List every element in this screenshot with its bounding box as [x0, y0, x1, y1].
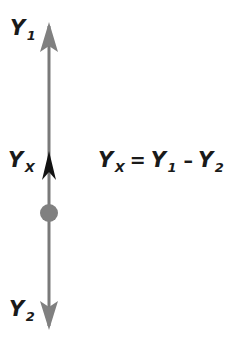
- axis-label-y2-base: Y: [9, 297, 25, 321]
- axis-label-y2-subscript: 2: [26, 309, 35, 324]
- equation-minus-operator: –: [183, 149, 193, 171]
- axis-label-yx-subscript: X: [25, 160, 35, 175]
- equation-term2-base: Y: [198, 148, 214, 172]
- axis-label-yx-base: Y: [8, 148, 24, 172]
- equation-term2-subscript: 2: [215, 160, 224, 175]
- axis-label-yx: YX: [8, 150, 35, 174]
- node-dot-icon: [40, 204, 58, 222]
- axis-label-y1: Y1: [10, 18, 36, 42]
- vector-diagram-figure: Y1 YX Y2 YX=Y1–Y2: [0, 0, 237, 349]
- equation-expression: YX=Y1–Y2: [98, 150, 224, 174]
- equation-lhs-subscript: X: [115, 160, 125, 175]
- equation-lhs-base: Y: [98, 148, 114, 172]
- axis-label-y1-base: Y: [10, 16, 26, 40]
- equation-term1-base: Y: [151, 148, 167, 172]
- axis-label-y2: Y2: [9, 299, 35, 323]
- axis-label-y1-subscript: 1: [27, 28, 36, 43]
- equation-equals-operator: =: [130, 149, 146, 171]
- equation-term1-subscript: 1: [167, 160, 176, 175]
